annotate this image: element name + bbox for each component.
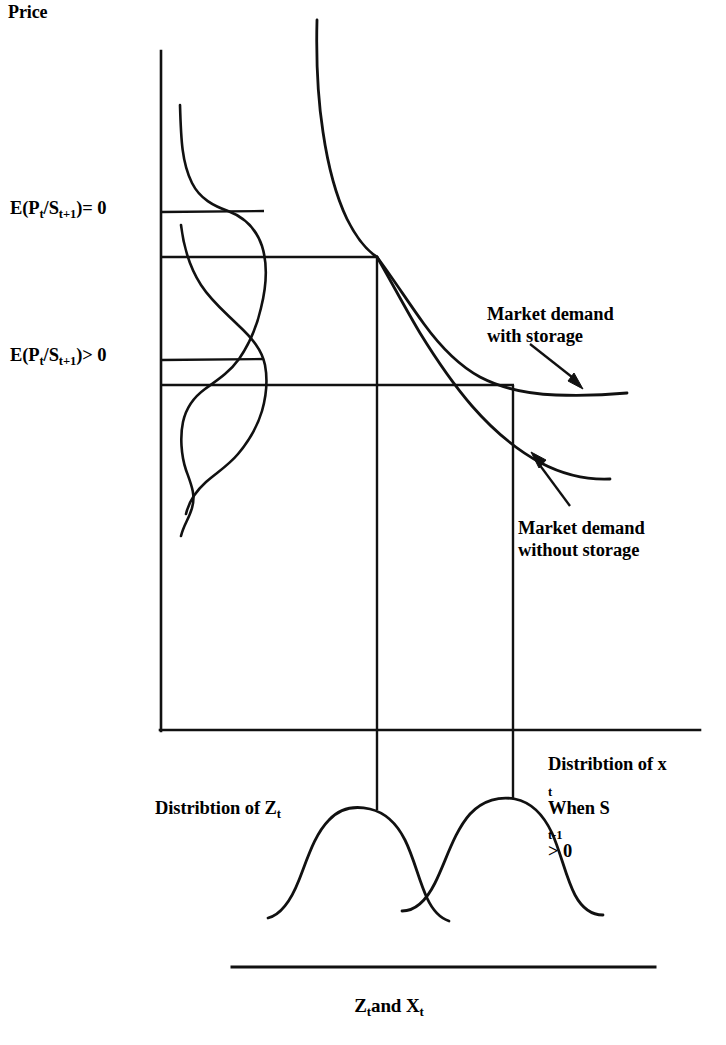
eq-zero-mid: /S [44,198,59,218]
annotation-arrows-group [530,344,583,506]
x-axis-sub-t2: t [420,1004,424,1019]
demand-curves-group [317,20,627,479]
annotation-with-storage-line2: with storage [487,326,614,348]
demand-curve-upper-branch [317,20,377,257]
price-reference-lines [161,211,514,385]
annotation-market-demand-with-storage: Market demand with storage [487,304,614,348]
y-axis-label: Price [8,2,47,23]
eq-zero-tail: )= 0 [76,198,106,218]
label-distribution-of-x: Distribtion of xt When St-1> 0 [548,754,667,863]
gt-zero-lead: E(P [10,345,40,365]
dist-x-when-sub: t-1 [548,828,562,842]
dist-x-lead: Distribtion of x [548,754,667,776]
label-distribution-of-z: Distribtion of Zt [155,798,281,820]
gt-zero-sub2: t+1 [59,354,76,368]
x-axis-and-x: and X [371,995,420,1016]
axes-group [160,51,700,731]
eq-zero-sub2: t+1 [59,207,76,221]
dist-x-when-lead: When S [548,798,667,820]
eq-zero-lead: E(P [10,198,40,218]
dist-x-sub: t [548,784,552,798]
reference-line-expectation-zero-short [161,211,264,212]
economics-figure: Price E(Pt/St+1)= 0 E(Pt/St+1)> 0 Market… [0,0,726,1045]
gt-zero-mid: /S [44,345,59,365]
price-level-label-expectation-positive: E(Pt/St+1)> 0 [10,345,106,367]
price-level-label-expectation-zero: E(Pt/St+1)= 0 [10,198,106,220]
dist-x-when-tail: > 0 [548,841,667,863]
dist-z-lead: Distribtion of Z [155,798,277,818]
price-distribution-curves [180,105,266,536]
market-demand-without-storage-curve [377,257,610,479]
price-distribution-lower-curve [181,225,266,514]
price-distribution-upper-curve [180,105,266,536]
x-axis-label: Ztand Xt [354,995,424,1017]
x-axis-z: Z [354,995,367,1016]
arrow-line-with-storage [530,344,577,381]
dist-x-line1: Distribtion of xt [548,754,667,798]
arrow-line-without-storage [536,460,570,506]
dist-z-sub: t [277,807,281,821]
gt-zero-tail: )> 0 [76,345,106,365]
annotation-with-storage-line1: Market demand [487,304,614,326]
dist-x-line2: When St-1> 0 [548,798,667,863]
annotation-without-storage-line2: without storage [518,540,645,562]
reference-line-expectation-positive-short [161,359,264,360]
annotation-market-demand-without-storage: Market demand without storage [518,518,645,562]
annotation-without-storage-line1: Market demand [518,518,645,540]
